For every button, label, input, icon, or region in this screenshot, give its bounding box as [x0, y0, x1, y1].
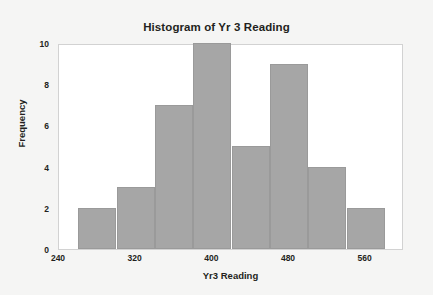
- histogram-bar: [78, 208, 116, 249]
- x-tick-label: 400: [204, 253, 218, 263]
- y-tick-label: 10: [40, 39, 49, 49]
- plot-area: [58, 44, 403, 250]
- x-tick-label: 480: [281, 253, 295, 263]
- histogram-bar: [308, 167, 346, 249]
- y-tick-label: 8: [44, 80, 49, 90]
- chart-title: Histogram of Yr 3 Reading: [0, 21, 433, 33]
- histogram-bar: [270, 64, 308, 249]
- histogram-bar: [193, 43, 231, 249]
- x-tick-label: 240: [51, 253, 65, 263]
- x-tick-label: 320: [128, 253, 142, 263]
- y-tick-label: 6: [44, 121, 49, 131]
- histogram-bar: [155, 105, 193, 249]
- x-axis: 240320400480560: [0, 253, 433, 271]
- y-axis-title: Frequency: [16, 84, 27, 164]
- histogram-bar: [117, 187, 155, 249]
- x-tick-label: 560: [358, 253, 372, 263]
- histogram-figure: Histogram of Yr 3 Reading Frequency 0246…: [0, 0, 433, 295]
- y-tick-label: 4: [44, 163, 49, 173]
- x-axis-title: Yr3 Reading: [58, 270, 403, 281]
- y-tick-label: 2: [44, 204, 49, 214]
- y-axis: Frequency 0246810: [0, 0, 58, 295]
- histogram-bar: [232, 146, 270, 249]
- histogram-bar: [347, 208, 385, 249]
- bars-layer: [59, 45, 402, 249]
